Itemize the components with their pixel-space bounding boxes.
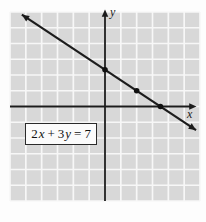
plot-render-layer <box>10 10 200 202</box>
equation-plus-sign: + <box>47 126 54 142</box>
x-axis-label: x <box>186 107 193 121</box>
equation-constant: 7 <box>84 126 91 142</box>
equation-label-box: 2x+3y=7 <box>25 123 97 145</box>
equation-term1-var: x <box>39 126 45 142</box>
equation-term2-coef: 3 <box>58 126 65 142</box>
line-graph-figure: y x 2x+3y=7 <box>0 0 206 222</box>
equation-equals-sign: = <box>74 126 81 142</box>
figure-page: y x 2x+3y=7 <box>0 0 206 222</box>
data-point <box>134 88 140 94</box>
plot-svg: y x <box>0 0 206 222</box>
data-point <box>158 104 164 110</box>
equation-term1-coef: 2 <box>31 126 38 142</box>
equation-term2-var: y <box>65 126 71 142</box>
y-axis-label: y <box>109 5 116 19</box>
data-point <box>102 67 108 73</box>
